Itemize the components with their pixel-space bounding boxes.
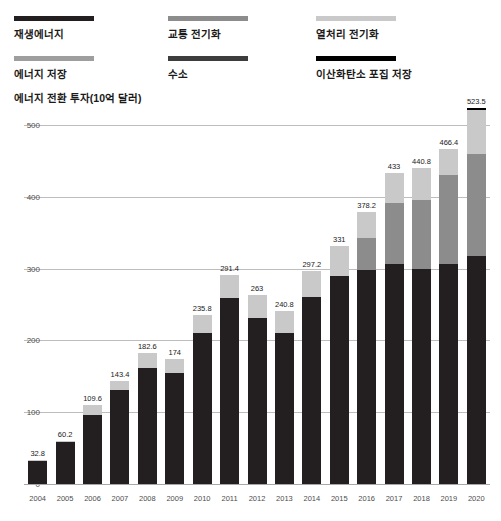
bar-segment[interactable] bbox=[165, 373, 184, 484]
bar-segment[interactable] bbox=[56, 442, 75, 484]
y-axis-tick-label: 500 bbox=[16, 121, 40, 130]
y-axis-tick-label: 200 bbox=[16, 336, 40, 345]
bar-segment[interactable] bbox=[357, 212, 376, 237]
bar-group[interactable]: 297.2 bbox=[302, 271, 321, 484]
bar-segment[interactable] bbox=[83, 405, 102, 415]
y-axis-tick-label: 300 bbox=[16, 264, 40, 273]
stacked-bar[interactable] bbox=[193, 315, 212, 484]
bar-segment[interactable] bbox=[28, 461, 47, 484]
bar-segment[interactable] bbox=[110, 381, 129, 390]
bar-segment[interactable] bbox=[412, 269, 431, 484]
bar-segment[interactable] bbox=[138, 368, 157, 484]
stacked-bar[interactable] bbox=[330, 246, 349, 484]
bar-group[interactable]: 174 bbox=[165, 359, 184, 484]
bar-value-label: 291.4 bbox=[202, 264, 258, 273]
bar-segment[interactable] bbox=[110, 390, 129, 484]
stacked-bar[interactable] bbox=[302, 271, 321, 484]
x-axis-tick-label: 2020 bbox=[448, 494, 501, 503]
stacked-bar[interactable] bbox=[357, 212, 376, 484]
bar-group[interactable]: 32.8 bbox=[28, 460, 47, 484]
bar-group[interactable]: 109.6 bbox=[83, 405, 102, 484]
bar-segment[interactable] bbox=[357, 238, 376, 270]
bar-segment[interactable] bbox=[193, 333, 212, 484]
stacked-bar-chart: 0100200300400500 32.860.2109.6143.4182.6… bbox=[0, 0, 501, 521]
stacked-bar[interactable] bbox=[83, 405, 102, 484]
bar-group[interactable]: 263 bbox=[248, 295, 267, 484]
bar-group[interactable]: 378.2 bbox=[357, 212, 376, 484]
bar-segment[interactable] bbox=[439, 264, 458, 484]
stacked-bar[interactable] bbox=[220, 275, 239, 484]
bar-value-label: 263 bbox=[229, 284, 285, 293]
stacked-bar[interactable] bbox=[412, 168, 431, 484]
stacked-bar[interactable] bbox=[275, 311, 294, 484]
bar-group[interactable]: 440.8 bbox=[412, 168, 431, 484]
bar-segment[interactable] bbox=[357, 270, 376, 484]
bar-group[interactable]: 523.5 bbox=[467, 108, 486, 484]
bar-group[interactable]: 235.8 bbox=[193, 315, 212, 484]
bar-group[interactable]: 60.2 bbox=[56, 441, 75, 484]
bar-group[interactable]: 240.8 bbox=[275, 311, 294, 484]
stacked-bar[interactable] bbox=[138, 353, 157, 484]
bar-segment[interactable] bbox=[439, 149, 458, 175]
bar-segment[interactable] bbox=[467, 256, 486, 484]
bar-segment[interactable] bbox=[302, 297, 321, 484]
bar-group[interactable]: 433 bbox=[385, 173, 404, 484]
bar-group[interactable]: 143.4 bbox=[110, 381, 129, 484]
bar-segment[interactable] bbox=[275, 333, 294, 484]
bar-segment[interactable] bbox=[385, 203, 404, 265]
bar-segment[interactable] bbox=[193, 315, 212, 333]
bar-segment[interactable] bbox=[220, 298, 239, 484]
bar-segment[interactable] bbox=[302, 271, 321, 298]
stacked-bar[interactable] bbox=[467, 108, 486, 484]
y-axis-tick-label: 100 bbox=[16, 408, 40, 417]
gridline-500 bbox=[24, 125, 490, 126]
bar-segment[interactable] bbox=[275, 311, 294, 332]
stacked-bar[interactable] bbox=[56, 441, 75, 484]
bar-segment[interactable] bbox=[467, 110, 486, 154]
stacked-bar[interactable] bbox=[385, 173, 404, 484]
bar-segment[interactable] bbox=[248, 318, 267, 484]
bar-segment[interactable] bbox=[165, 359, 184, 373]
bar-segment[interactable] bbox=[330, 276, 349, 484]
bar-segment[interactable] bbox=[412, 168, 431, 201]
bar-value-label: 523.5 bbox=[448, 97, 501, 106]
bar-segment[interactable] bbox=[467, 154, 486, 255]
bar-segment[interactable] bbox=[330, 246, 349, 275]
bar-segment[interactable] bbox=[385, 173, 404, 202]
x-axis-baseline bbox=[24, 484, 490, 485]
bar-segment[interactable] bbox=[385, 264, 404, 484]
bar-group[interactable]: 466.4 bbox=[439, 149, 458, 484]
bar-segment[interactable] bbox=[439, 175, 458, 264]
bar-segment[interactable] bbox=[83, 415, 102, 484]
bar-group[interactable]: 182.6 bbox=[138, 353, 157, 484]
stacked-bar[interactable] bbox=[165, 359, 184, 484]
bar-segment[interactable] bbox=[412, 200, 431, 269]
bar-group[interactable]: 291.4 bbox=[220, 275, 239, 484]
y-axis-tick-label: 400 bbox=[16, 192, 40, 201]
stacked-bar[interactable] bbox=[28, 460, 47, 484]
stacked-bar[interactable] bbox=[110, 381, 129, 484]
stacked-bar[interactable] bbox=[248, 295, 267, 484]
stacked-bar[interactable] bbox=[439, 149, 458, 484]
bar-group[interactable]: 331 bbox=[330, 246, 349, 484]
